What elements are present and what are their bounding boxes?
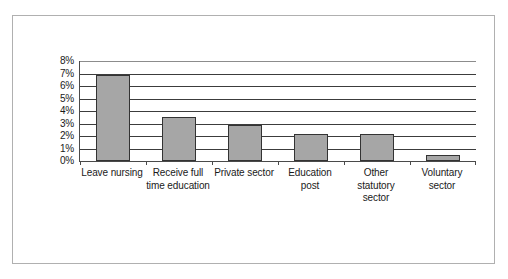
bar <box>294 134 328 162</box>
y-axis-tick-3%: 3% <box>60 119 74 129</box>
bar <box>360 134 394 162</box>
y-axis-tick-5%: 5% <box>60 94 74 104</box>
bar <box>162 117 196 161</box>
y-axis-tick-1%: 1% <box>60 144 74 154</box>
x-axis-tickmark <box>475 161 476 165</box>
x-axis-tickmark <box>344 161 345 165</box>
y-axis-tick-labels: 8%7%6%5%4%3%2%1%0% <box>47 61 77 161</box>
y-axis-tick-0%: 0% <box>60 156 74 166</box>
bar-slot <box>212 61 278 161</box>
bar <box>426 155 460 161</box>
y-axis-tick-6%: 6% <box>60 81 74 91</box>
x-axis-tickmark <box>146 161 147 165</box>
chart-plot-wrapper: 8%7%6%5%4%3%2%1%0% Leave nursingReceive … <box>47 61 479 261</box>
x-axis-category-labels: Leave nursingReceive full time education… <box>79 167 475 205</box>
y-axis-tick-4%: 4% <box>60 106 74 116</box>
x-axis-label: Leave nursing <box>79 167 145 205</box>
x-axis-label: Voluntary sector <box>409 167 475 205</box>
y-axis-tick-2%: 2% <box>60 131 74 141</box>
x-axis-tickmark <box>80 161 81 165</box>
x-axis-label: Receive full time education <box>145 167 211 205</box>
y-axis-tick-8%: 8% <box>60 56 74 66</box>
bar-series <box>80 61 476 161</box>
bar-slot <box>80 61 146 161</box>
x-axis-label: Education post <box>277 167 343 205</box>
x-axis-label: Private sector <box>211 167 277 205</box>
bar-slot <box>344 61 410 161</box>
chart-frame: 8%7%6%5%4%3%2%1%0% Leave nursingReceive … <box>12 15 495 264</box>
bar <box>96 75 130 161</box>
x-axis-tickmark <box>212 161 213 165</box>
bar <box>228 125 262 161</box>
x-axis-label: Other statutory sector <box>343 167 409 205</box>
bar-slot <box>278 61 344 161</box>
bar-slot <box>146 61 212 161</box>
y-axis-tick-7%: 7% <box>60 69 74 79</box>
plot-area <box>79 61 476 162</box>
x-axis-tickmark <box>410 161 411 165</box>
x-axis-tickmark <box>278 161 279 165</box>
bar-slot <box>410 61 476 161</box>
